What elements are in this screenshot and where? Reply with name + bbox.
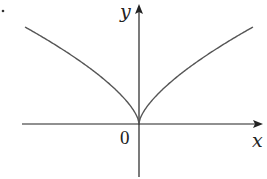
x-axis-label: x <box>252 131 263 150</box>
bullet-dot <box>2 10 5 13</box>
y-axis-label: y <box>120 2 131 21</box>
graph-canvas <box>0 0 267 179</box>
origin-label: 0 <box>120 128 130 147</box>
